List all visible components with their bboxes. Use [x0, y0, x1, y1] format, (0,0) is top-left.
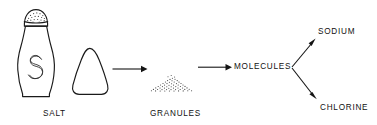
label-salt: SALT — [43, 110, 66, 118]
arrow-molecules-to-chlorine — [292, 68, 317, 99]
granules-illustration — [151, 75, 192, 91]
label-chlorine: CHLORINE — [320, 104, 368, 112]
salt-cone-illustration — [73, 48, 108, 94]
arrow-granules-to-molecules — [198, 64, 232, 70]
shaker-body-outline — [18, 26, 55, 97]
salt-cone-outline — [73, 48, 108, 94]
arrow-molecules-to-sodium — [292, 39, 316, 67]
label-molecules: MOLECULES — [234, 63, 291, 71]
shaker-cap-holes — [27, 12, 45, 22]
shaker-cap-rim — [24, 22, 47, 23]
label-granules: GRANULES — [150, 110, 201, 118]
salt-shaker-illustration — [18, 10, 55, 97]
label-sodium: SODIUM — [318, 28, 355, 36]
arrow-salt-to-granules — [113, 66, 148, 72]
salt-decomposition-diagram: SALT GRANULES MOLECULES SODIUM CHLORINE — [0, 0, 377, 125]
shaker-cap-dome — [24, 10, 47, 27]
shaker-monogram-s — [28, 55, 42, 78]
